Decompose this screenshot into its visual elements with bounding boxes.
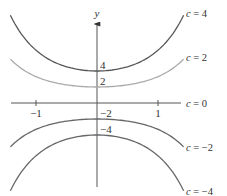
legend-label: c = 0	[186, 98, 207, 109]
level-curves-chart: y −11 42−2−4 c = 4c = 2c = 0c = −2c = −4	[0, 0, 227, 196]
intercept-label: −2	[100, 107, 112, 119]
x-tick-label: −1	[30, 107, 42, 119]
legend-label: c = −4	[186, 186, 214, 196]
x-tick-label: 1	[155, 107, 161, 119]
intercept-label: 4	[100, 59, 106, 71]
intercept-label: 2	[100, 75, 106, 87]
intercept-label: −4	[100, 123, 112, 135]
axes: y	[11, 7, 181, 187]
legend-label: c = −2	[186, 142, 213, 153]
legend-label: c = 2	[186, 52, 207, 63]
curve-labels: c = 4c = 2c = 0c = −2c = −4	[186, 8, 214, 196]
y-axis-label: y	[94, 7, 100, 19]
legend-label: c = 4	[186, 8, 208, 19]
